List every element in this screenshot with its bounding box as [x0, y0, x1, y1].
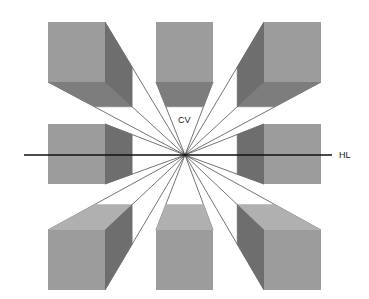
perspective-diagram-canvas: CV HL	[0, 0, 369, 299]
cube-bottom-center	[156, 205, 213, 291]
cube-top-right-front-face	[264, 22, 321, 82]
cube-bottom-right-front-face	[264, 230, 321, 290]
cube-top-left-front-face	[48, 22, 105, 82]
cube-top-center	[156, 22, 213, 107]
cube-bottom-center-front-face	[156, 230, 213, 290]
cube-middle-right-front-face	[264, 124, 321, 184]
cube-bottom-center-top-face	[156, 205, 213, 231]
vanishing-point-label: CV	[178, 115, 191, 125]
cube-top-center-bottom-face	[156, 82, 213, 107]
cube-middle-left-side-face	[105, 124, 132, 184]
cube-top-center-front-face	[156, 22, 213, 82]
cube-middle-right	[237, 124, 321, 184]
perspective-diagram-svg: CV HL	[0, 0, 369, 299]
cube-middle-left-front-face	[48, 124, 105, 184]
cube-middle-right-side-face	[237, 124, 264, 184]
horizon-line-label: HL	[339, 150, 351, 160]
cube-middle-left	[48, 124, 132, 184]
cube-bottom-left-front-face	[48, 230, 105, 290]
